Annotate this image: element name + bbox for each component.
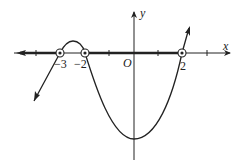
y-axis-label: y	[139, 6, 146, 20]
root-label-neg3: −3	[54, 57, 67, 71]
x-axis-label: x	[222, 39, 229, 53]
root-marker-neg2	[81, 49, 89, 57]
graph-canvas: y x O −3 −2 2	[0, 0, 239, 164]
root-marker-2	[178, 49, 186, 57]
root-label-2: 2	[180, 59, 186, 73]
polynomial-curve	[34, 26, 190, 139]
root-label-neg2: −2	[74, 57, 87, 71]
origin-label: O	[123, 56, 132, 70]
root-marker-neg3	[56, 49, 64, 57]
